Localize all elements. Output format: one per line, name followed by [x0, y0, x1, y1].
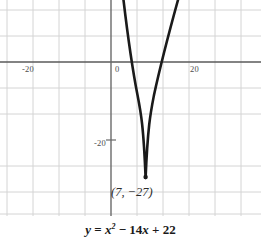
- vertex-annotation-label: (7, −27): [111, 185, 153, 200]
- x-axis-tick-label-zero: 0: [115, 64, 119, 74]
- equation-minus: −: [119, 222, 126, 237]
- equation-plus: +: [152, 222, 159, 237]
- parabola-figure: -20 0 20 -20 (7, −27) y = x2 − 14x + 22: [0, 0, 261, 237]
- y-axis-tick-label-neg20: -20: [94, 138, 106, 148]
- grid-lines-vertical: [7, 0, 241, 216]
- equation-equals: =: [94, 222, 101, 237]
- graph-canvas: [0, 0, 261, 216]
- vertex-point: [143, 175, 147, 179]
- x-axis-tick-label-20: 20: [190, 64, 199, 74]
- equation-constant: 22: [163, 222, 176, 237]
- plot-area: [0, 0, 261, 216]
- grid-lines-horizontal: [0, 10, 261, 214]
- equation-exponent: 2: [111, 222, 115, 231]
- equation-linear-variable: x: [142, 222, 149, 237]
- equation-linear-coefficient: 14: [129, 222, 142, 237]
- equation-lhs: y: [85, 222, 91, 237]
- x-axis-tick-label-neg20: -20: [22, 64, 34, 74]
- equation-caption: y = x2 − 14x + 22: [0, 222, 261, 237]
- parabola-curve: [124, 0, 179, 178]
